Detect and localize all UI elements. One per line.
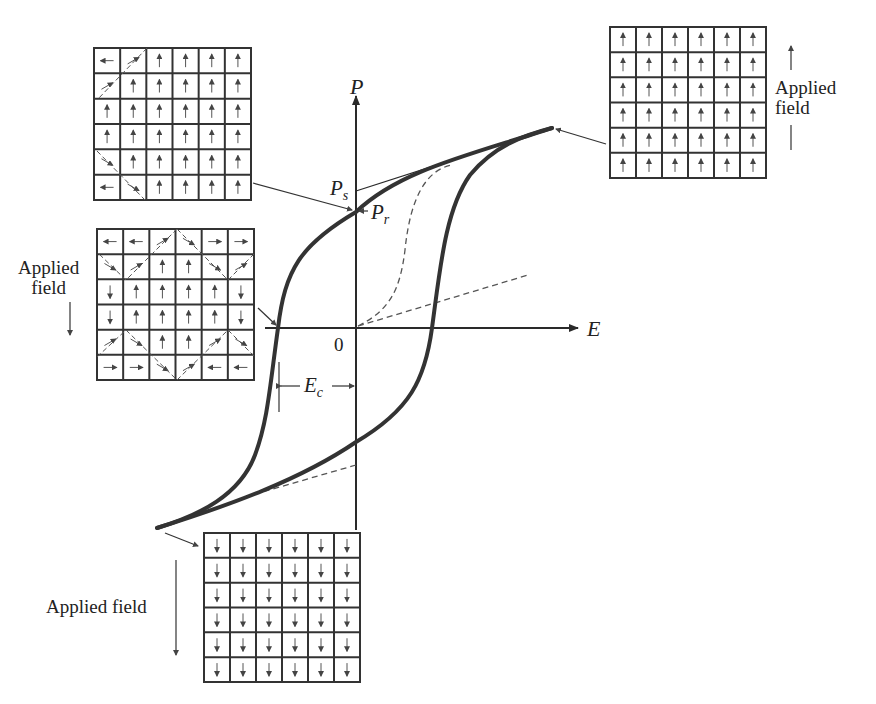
field-label-top-right-line2: field	[775, 98, 836, 118]
field-label-middle-left-line2: field	[18, 278, 79, 298]
pointer-top-right	[556, 129, 606, 144]
ec-label-sub: c	[317, 385, 323, 400]
ec-label: Ec	[304, 373, 323, 401]
e-axis-label: E	[587, 316, 600, 342]
field-label-middle-left-line1: Applied	[18, 258, 79, 278]
ps-label-main: P	[330, 176, 343, 200]
axes	[265, 96, 578, 530]
pointer-bottom	[165, 533, 198, 546]
pr-label-sub: r	[384, 212, 389, 227]
pr-label-main: P	[371, 200, 384, 224]
field-label-top-right-line1: Applied	[775, 78, 836, 98]
domain-grid-top-right	[610, 27, 766, 178]
ps-label: Ps	[330, 176, 348, 204]
pr-label: Pr	[371, 200, 389, 228]
field-label-top-right: Applied field	[775, 78, 836, 118]
pointer-middle-left	[258, 308, 276, 325]
linear-dielectric-line	[358, 275, 528, 326]
ps-label-sub: s	[343, 188, 348, 203]
p-axis-label: P	[350, 74, 363, 100]
origin-label: 0	[334, 334, 344, 356]
ec-label-main: E	[304, 373, 317, 397]
field-label-bottom: Applied field	[46, 597, 147, 617]
domain-grid-top-left	[94, 48, 251, 200]
domain-grid-bottom	[204, 533, 360, 682]
field-label-middle-left: Applied field	[18, 258, 79, 298]
domain-grid-middle-left	[97, 229, 254, 380]
